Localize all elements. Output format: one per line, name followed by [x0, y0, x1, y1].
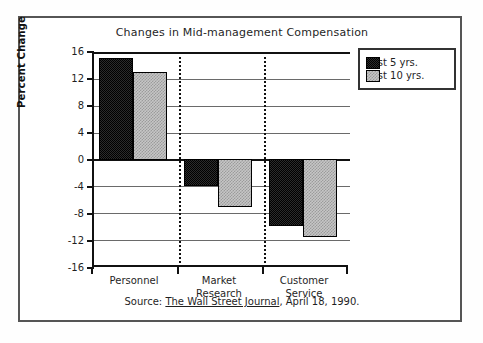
- bar-personnel-past10: [133, 72, 167, 160]
- y-tick-label-neg16: -16: [50, 262, 84, 273]
- source-suffix: , April 18, 1990.: [279, 296, 359, 307]
- category-separator-1: [179, 52, 181, 267]
- chart-frame: Changes in Mid-management Compensation P…: [18, 16, 462, 322]
- y-tick-label-16: 16: [50, 46, 84, 57]
- x-tick-mark: [177, 267, 179, 274]
- legend-item-past-10-yrs: Past 10 yrs.: [366, 70, 448, 81]
- y-tick-label-0: 0: [50, 154, 84, 165]
- x-tick-mark: [91, 267, 93, 274]
- y-tick-label-12: 12: [50, 73, 84, 84]
- bar-market-research-past10: [218, 159, 252, 207]
- y-tick-label-4: 4: [50, 127, 84, 138]
- x-label-line: Market: [174, 274, 264, 287]
- y-tick-label-neg4: -4: [50, 181, 84, 192]
- bar-customer-service-past10: [303, 159, 337, 237]
- category-separator-2: [264, 52, 266, 267]
- source-publication: The Wall Street Journal: [165, 296, 279, 307]
- bar-personnel-past5: [99, 58, 133, 160]
- chart-title: Changes in Mid-management Compensation: [20, 26, 464, 39]
- source-prefix: Source:: [124, 296, 162, 307]
- legend-item-past-5-yrs: Past 5 yrs.: [366, 57, 448, 68]
- legend-swatch-dark-icon: [366, 57, 380, 69]
- y-tick-label-neg8: -8: [50, 208, 84, 219]
- x-tick-mark: [346, 267, 348, 274]
- x-tick-mark: [262, 267, 264, 274]
- bar-customer-service-past5: [269, 159, 303, 226]
- plot-area: [92, 52, 348, 267]
- source-note: Source: The Wall Street Journal, April 1…: [20, 296, 464, 307]
- x-category-label-personnel: Personnel: [89, 274, 179, 287]
- chart-legend: Past 5 yrs. Past 10 yrs.: [358, 48, 456, 90]
- legend-swatch-light-icon: [366, 70, 380, 82]
- y-axis-title: Percent Change: [16, 2, 27, 122]
- y-tick-label-neg12: -12: [50, 235, 84, 246]
- x-label-line: Personnel: [89, 274, 179, 287]
- bar-market-research-past5: [184, 159, 218, 186]
- gridline-neg12: [94, 240, 350, 241]
- x-label-line: Customer: [259, 274, 349, 287]
- gridline-16: [94, 52, 350, 54]
- chart-page: Changes in Mid-management Compensation P…: [0, 0, 483, 343]
- y-tick-label-8: 8: [50, 100, 84, 111]
